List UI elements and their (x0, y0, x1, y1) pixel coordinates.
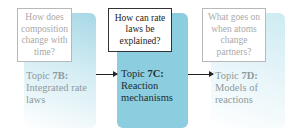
arrow-right-icon (188, 74, 213, 75)
topic-number: 7B: (52, 70, 68, 81)
topic-prefix: Topic (26, 70, 52, 81)
question-text-7b: How does composition change with time? (18, 12, 71, 58)
question-box-7c: How can rate laws be explained? (108, 8, 172, 52)
topic-number: 7C: (147, 68, 163, 79)
topic-title: Reaction mechanisms (121, 80, 173, 103)
topic-label-7d: Topic 7D: Models of reactions (215, 70, 281, 106)
topic-label-7c: Topic 7C: Reaction mechanisms (121, 68, 187, 104)
topic-prefix: Topic (215, 70, 241, 81)
topic-title: Integrated rate laws (26, 82, 87, 105)
topic-number: 7D: (241, 70, 257, 81)
topic-prefix: Topic (121, 68, 147, 79)
question-box-7b: How does composition change with time? (17, 8, 72, 62)
arrow-right-icon (96, 74, 117, 75)
question-box-7d: What goes on when atoms change partners? (202, 8, 266, 62)
topic-title: Models of reactions (215, 82, 258, 105)
topic-label-7b: Topic 7B: Integrated rate laws (26, 70, 96, 106)
question-text-7d: What goes on when atoms change partners? (203, 12, 265, 58)
question-text-7c: How can rate laws be explained? (109, 13, 171, 48)
